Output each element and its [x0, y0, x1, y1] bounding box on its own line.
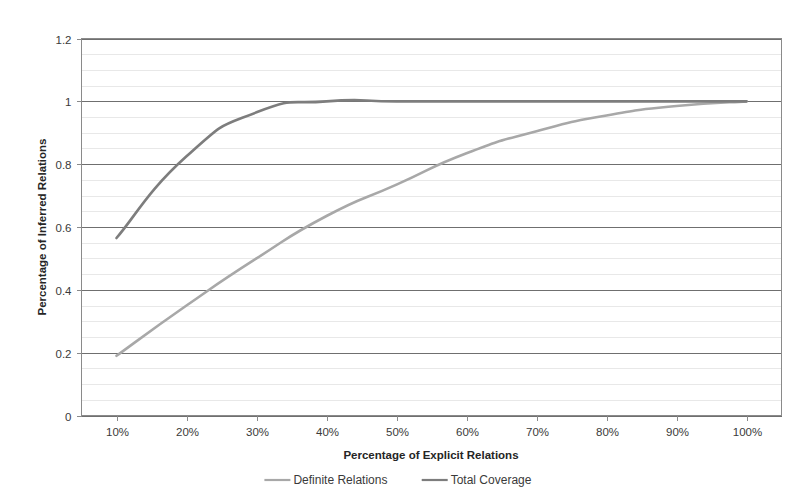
- y-axis-tick-labels: 00.20.40.60.811.2: [56, 34, 73, 423]
- x-tick-label: 10%: [106, 426, 129, 438]
- chart-legend: Definite RelationsTotal Coverage: [264, 473, 531, 487]
- y-tick-label: 1: [65, 96, 71, 108]
- x-axis-title: Percentage of Explicit Relations: [343, 449, 518, 461]
- legend-label: Definite Relations: [293, 473, 387, 487]
- x-tick-label: 30%: [246, 426, 269, 438]
- x-tick-label: 70%: [526, 426, 549, 438]
- legend-label: Total Coverage: [451, 473, 532, 487]
- y-axis-title: Percentage of Inferred Relations: [36, 138, 48, 315]
- line-chart: 00.20.40.60.811.2 10%20%30%40%50%60%70%8…: [0, 0, 804, 504]
- x-axis-tick-labels: 10%20%30%40%50%60%70%80%90%100%: [106, 426, 762, 438]
- y-axis-tick-marks: [77, 40, 82, 417]
- x-tick-label: 50%: [386, 426, 409, 438]
- x-tick-label: 100%: [733, 426, 762, 438]
- y-tick-label: 0.6: [56, 222, 72, 234]
- y-tick-label: 0.8: [56, 159, 72, 171]
- x-tick-label: 40%: [316, 426, 339, 438]
- x-tick-label: 90%: [666, 426, 689, 438]
- y-tick-label: 0: [65, 411, 71, 423]
- x-tick-label: 60%: [456, 426, 479, 438]
- y-tick-label: 1.2: [56, 34, 72, 46]
- chart-container: 00.20.40.60.811.2 10%20%30%40%50%60%70%8…: [0, 0, 804, 504]
- x-tick-label: 80%: [596, 426, 619, 438]
- y-tick-label: 0.4: [56, 285, 73, 297]
- x-tick-label: 20%: [176, 426, 199, 438]
- major-gridlines: [82, 40, 782, 417]
- series-line-definite-relations: [117, 101, 747, 355]
- y-tick-label: 0.2: [56, 348, 72, 360]
